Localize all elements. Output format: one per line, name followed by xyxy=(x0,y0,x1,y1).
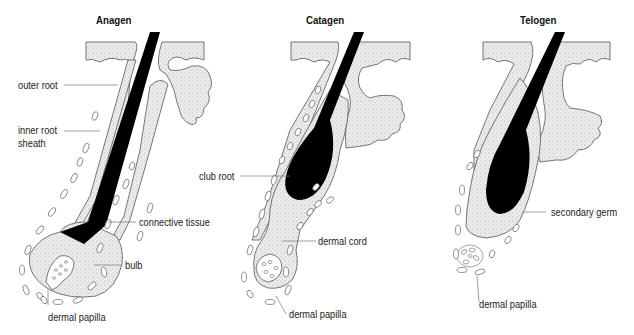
diagram-artwork xyxy=(0,0,634,335)
label-bulb: bulb xyxy=(125,259,142,272)
anagen-title: Anagen xyxy=(96,14,132,26)
catagen-follicle xyxy=(240,32,410,314)
catagen-title: Catagen xyxy=(306,14,344,26)
label-inner-root-sheath-line1: inner root xyxy=(18,124,57,137)
label-telogen-dermal-papilla: dermal papilla xyxy=(479,298,537,311)
label-secondary-germ: secondary germ xyxy=(551,206,617,219)
label-anagen-dermal-papilla: dermal papilla xyxy=(48,311,106,324)
label-inner-root-sheath-line2: sheath xyxy=(18,137,46,150)
telogen-follicle xyxy=(454,32,611,302)
label-catagen-dermal-papilla: dermal papilla xyxy=(289,308,347,321)
anagen-follicle xyxy=(20,32,212,305)
label-club-root: club root xyxy=(199,170,234,183)
label-outer-root: outer root xyxy=(18,79,58,92)
label-connective-tissue: connective tissue xyxy=(139,216,210,229)
hair-growth-cycle-diagram: Anagen Catagen Telogen outer root inner … xyxy=(0,0,634,335)
label-dermal-cord: dermal cord xyxy=(318,235,367,248)
telogen-title: Telogen xyxy=(520,14,556,26)
